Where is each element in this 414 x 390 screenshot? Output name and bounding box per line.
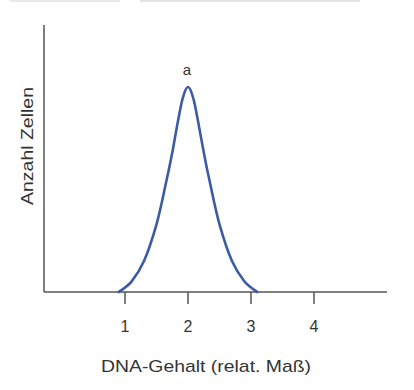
x-tick-label: 3 (247, 318, 256, 335)
x-tick-label: 1 (121, 318, 130, 335)
x-tick-label: 4 (310, 318, 319, 335)
y-axis-label: Anzahl Zellen (18, 87, 37, 205)
peak-label: a (183, 61, 192, 78)
x-tick-label: 2 (184, 318, 193, 335)
distribution-curve (119, 87, 258, 292)
x-axis-label: DNA-Gehalt (relat. Maß) (101, 357, 311, 376)
x-ticks: 1234 (121, 292, 319, 335)
dna-content-chart: 1234 a DNA-Gehalt (relat. Maß) Anzahl Ze… (0, 0, 414, 390)
